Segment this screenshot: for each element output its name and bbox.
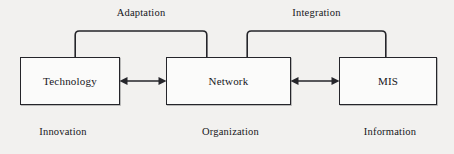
node-box-network[interactable]: Network <box>166 57 291 105</box>
bracket-adaptation <box>73 29 209 59</box>
node-box-technology[interactable]: Technology <box>20 57 120 105</box>
double-arrow-icon-network-mis <box>290 74 340 88</box>
bracket-label-adaptation: Adaptation <box>73 7 209 18</box>
node-sublabel-organization: Organization <box>168 126 293 137</box>
node-label-technology: Technology <box>43 75 97 87</box>
node-box-mis[interactable]: MIS <box>339 57 437 105</box>
bracket-integration <box>245 29 388 59</box>
node-sublabel-innovation: Innovation <box>13 126 113 137</box>
node-label-mis: MIS <box>378 75 398 87</box>
relationship-diagram: Adaptation Integration Technology Networ… <box>0 0 454 154</box>
bracket-label-integration: Integration <box>245 7 388 18</box>
node-label-network: Network <box>209 75 249 87</box>
double-arrow-icon-technology-network <box>119 74 167 88</box>
node-sublabel-information: Information <box>341 126 439 137</box>
